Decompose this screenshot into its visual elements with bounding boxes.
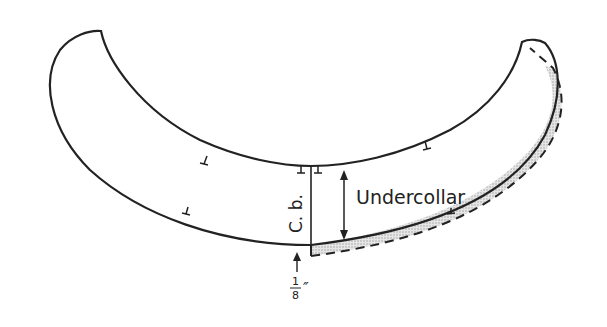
- allowance-fraction: 1 8 ″: [290, 275, 309, 302]
- diagram-canvas: Undercollar C. b. 1 8 ″: [0, 0, 607, 327]
- fraction-numerator: 1: [292, 275, 299, 288]
- fraction-denominator: 8: [292, 289, 299, 302]
- fraction-unit: ″: [303, 280, 309, 298]
- width-arrow: [340, 170, 348, 240]
- undercollar-label: Undercollar: [356, 186, 465, 208]
- undercollar-diagram: Undercollar C. b. 1 8 ″: [0, 0, 607, 327]
- center-back-label: C. b.: [286, 194, 306, 233]
- allowance-arrow: [293, 252, 301, 272]
